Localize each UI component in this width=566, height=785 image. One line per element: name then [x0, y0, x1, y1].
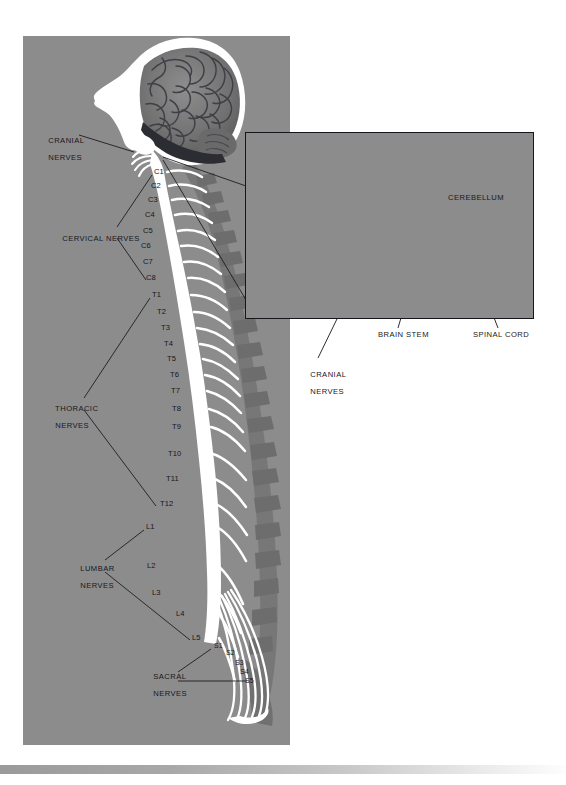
main-anatomy-artwork — [0, 0, 566, 785]
callout-cranial-nerves-line1: CRANIAL — [48, 136, 84, 145]
inset-detail-panel — [245, 132, 534, 319]
callout-lumbar-nerves: LUMBAR NERVES — [70, 556, 115, 599]
callout-cervical-nerves: CERVICAL NERVES — [52, 226, 140, 252]
segment-label-c4: C4 — [145, 211, 155, 220]
callout-lumbar-nerves-line2: NERVES — [80, 581, 114, 590]
segment-label-l3: L3 — [152, 589, 161, 598]
callout-thoracic-nerves-line1: THORACIC — [55, 404, 98, 413]
segment-label-t7: T7 — [171, 387, 180, 396]
callout-cervical-nerves-line1: CERVICAL NERVES — [62, 234, 140, 243]
segment-label-t2: T2 — [157, 308, 166, 317]
segment-label-t12: T12 — [160, 500, 173, 509]
segment-label-t4: T4 — [164, 340, 173, 349]
callout-cranial-nerves-line2: NERVES — [48, 153, 82, 162]
segment-label-c6: C6 — [141, 242, 151, 251]
segment-label-s1: S1 — [214, 642, 223, 651]
inset-label-spinal-cord: SPINAL CORD — [473, 331, 529, 340]
inset-label-cerebellum: CEREBELLUM — [448, 194, 504, 203]
callout-sacral-nerves-line2: NERVES — [153, 689, 187, 698]
segment-label-l2: L2 — [147, 562, 156, 571]
callout-thoracic-nerves-line2: NERVES — [55, 421, 89, 430]
inset-label-cranial-nerves-line2: NERVES — [310, 387, 344, 396]
segment-label-t3: T3 — [161, 324, 170, 333]
callout-lumbar-nerves-line1: LUMBAR — [80, 564, 114, 573]
segment-label-c5: C5 — [143, 227, 153, 236]
segment-label-s4: S4 — [240, 668, 249, 677]
segment-label-t5: T5 — [167, 355, 176, 364]
segment-label-s5: S5 — [245, 677, 254, 686]
inset-label-brain-stem: BRAIN STEM — [378, 331, 429, 340]
figure-canvas: CRANIAL NERVES CERVICAL NERVES THORACIC … — [0, 0, 566, 785]
footer-gradient-bar — [0, 765, 566, 774]
inset-label-cranial-nerves: CRANIAL NERVES — [300, 362, 346, 405]
segment-label-t1: T1 — [152, 291, 161, 300]
segment-label-t8: T8 — [172, 405, 181, 414]
segment-label-l5: L5 — [192, 634, 201, 643]
segment-label-c7: C7 — [143, 258, 153, 267]
segment-label-t6: T6 — [170, 371, 179, 380]
callout-sacral-nerves: SACRAL NERVES — [143, 664, 187, 707]
inset-label-cranial-nerves-line1: CRANIAL — [310, 370, 346, 379]
segment-label-s2: S2 — [226, 649, 235, 658]
callout-sacral-nerves-line1: SACRAL — [153, 672, 186, 681]
segment-label-l1: L1 — [146, 523, 155, 532]
segment-label-t11: T11 — [166, 475, 179, 484]
segment-label-l4: L4 — [176, 610, 185, 619]
segment-label-c8: C8 — [146, 274, 156, 283]
segment-label-t9: T9 — [172, 423, 181, 432]
segment-label-c2: C2 — [151, 182, 161, 191]
segment-label-s3: S3 — [235, 659, 244, 668]
callout-thoracic-nerves: THORACIC NERVES — [45, 396, 98, 439]
segment-label-t10: T10 — [168, 450, 181, 459]
callout-cranial-nerves: CRANIAL NERVES — [38, 128, 84, 171]
segment-label-c1: C1 — [154, 168, 164, 177]
segment-label-c3: C3 — [148, 196, 158, 205]
